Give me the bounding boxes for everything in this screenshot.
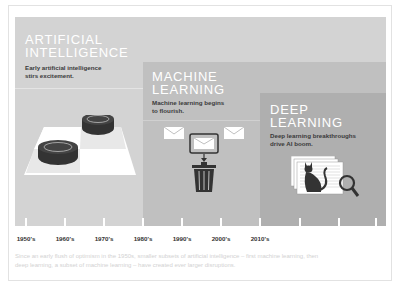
image-recognition-icon <box>291 156 371 208</box>
timeline-label: 2010's <box>245 235 275 242</box>
description-line: to flourish. <box>152 107 224 115</box>
timeline-tick <box>103 218 105 229</box>
timeline-label: 1960's <box>50 235 80 242</box>
stage-description-ai: Early artificial intelligence stirs exci… <box>25 64 101 79</box>
description-line: Deep learning breakthroughs <box>270 132 356 140</box>
title-line: LEARNING <box>270 116 343 129</box>
stage-title-dl: DEEP LEARNING <box>270 103 343 129</box>
title-line: INTELLIGENCE <box>25 46 129 59</box>
timeline-tick <box>375 218 377 229</box>
timeline-tick <box>64 218 66 229</box>
timeline-label: 1950's <box>11 235 41 242</box>
timeline-tick <box>220 218 222 229</box>
envelope-icon <box>164 127 184 139</box>
divider <box>15 88 143 89</box>
stage-title-ai: ARTIFICIAL INTELLIGENCE <box>25 33 129 59</box>
description-line: stirs excitement. <box>25 72 101 80</box>
timeline-tick <box>338 218 340 229</box>
divider <box>143 120 260 121</box>
timeline-tick <box>299 218 301 229</box>
stage-title-ml: MACHINE LEARNING <box>152 70 225 96</box>
spam-filter-icon <box>164 127 246 193</box>
caption-line: Since an early flush of optimism in the … <box>15 252 370 261</box>
timeline-tick <box>25 218 27 229</box>
stage-description-ml: Machine learning begins to flourish. <box>152 99 224 114</box>
timeline-tick <box>259 218 261 229</box>
timeline-tick <box>181 218 183 229</box>
trash-can-icon <box>192 162 216 192</box>
envelope-icon <box>224 127 244 139</box>
checkers-board-icon <box>24 115 136 175</box>
description-line: Early artificial intelligence <box>25 64 101 72</box>
title-line: LEARNING <box>152 83 225 96</box>
timeline-tick <box>142 218 144 229</box>
footer-caption: Since an early flush of optimism in the … <box>15 252 370 269</box>
description-line: Machine learning begins <box>152 99 224 107</box>
timeline-label: 1990's <box>167 235 197 242</box>
caption-line: deep learning, a subset of machine learn… <box>15 261 370 270</box>
description-line: drive AI boom. <box>270 140 356 148</box>
stage-description-dl: Deep learning breakthroughs drive AI boo… <box>270 132 356 147</box>
timeline-label: 1980's <box>128 235 158 242</box>
timeline-label: 1970's <box>89 235 119 242</box>
timeline-label: 2000's <box>206 235 236 242</box>
